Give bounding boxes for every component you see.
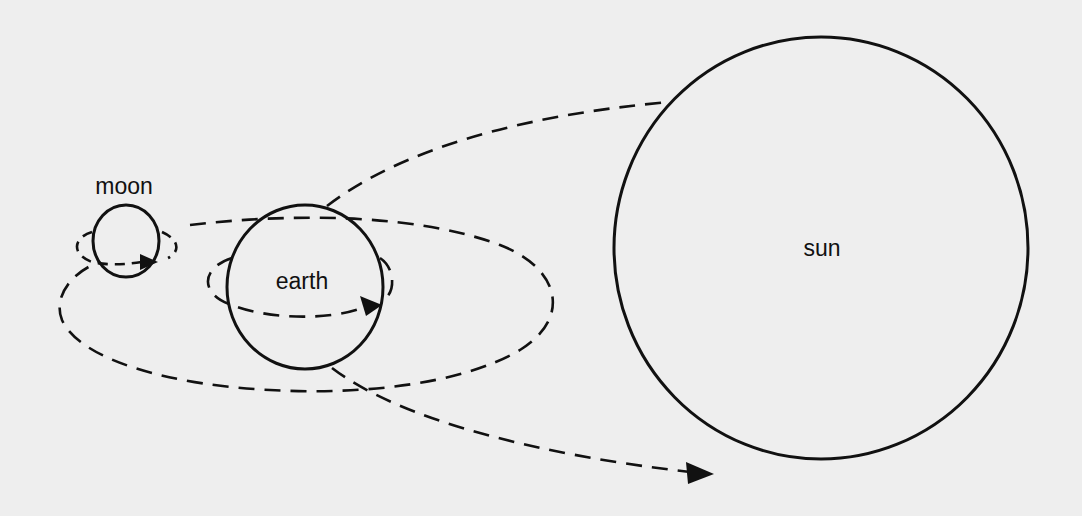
arrowhead-icon — [686, 462, 714, 484]
moon-orbit-ellipse — [60, 218, 553, 392]
sun-label: sun — [803, 237, 840, 260]
earth-label: earth — [276, 270, 328, 293]
sun-tangent-line — [327, 102, 670, 206]
moon-circle — [93, 205, 159, 277]
diagram-svg — [0, 0, 1082, 516]
diagram-canvas: moon earth sun — [0, 0, 1082, 516]
earth-orbit-arrow — [332, 368, 714, 484]
moon-label: moon — [95, 175, 153, 198]
